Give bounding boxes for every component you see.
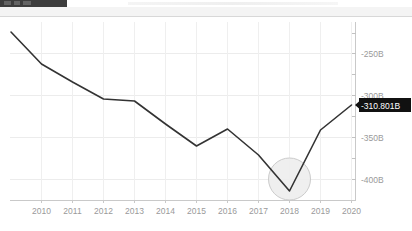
y-tick-label-2: -350B: [361, 133, 384, 143]
screenshot-root: -250B -300B -350B -400B 2010 2011 2012 2…: [0, 0, 412, 231]
browser-tab[interactable]: [0, 0, 67, 7]
x-tick-label-5: 2015: [187, 206, 206, 216]
highlight-circle-2018[interactable]: [269, 158, 311, 200]
x-tick-label-10: 2020: [342, 206, 361, 216]
y-tick-label-3: -400B: [361, 175, 384, 185]
y-tick-label-0: -250B: [361, 49, 384, 59]
line-chart[interactable]: -250B -300B -350B -400B 2010 2011 2012 2…: [0, 17, 412, 231]
chrome-faint-toolbar-hint: [128, 2, 338, 5]
x-tick-label-7: 2017: [249, 206, 268, 216]
x-tick-label-2: 2012: [94, 206, 113, 216]
x-tick-label-4: 2014: [156, 206, 175, 216]
x-tick-label-6: 2016: [218, 206, 237, 216]
x-tick-label-9: 2019: [311, 206, 330, 216]
x-tick-label-3: 2013: [125, 206, 144, 216]
x-tick-label-0: 2010: [32, 206, 51, 216]
chart-panel: -250B -300B -350B -400B 2010 2011 2012 2…: [0, 17, 412, 231]
x-tick-label-1: 2011: [63, 206, 82, 216]
tooltip-value-label: -310.801B: [361, 101, 401, 111]
x-axis-tick-labels: 2010 2011 2012 2013 2014 2015 2016 2017 …: [32, 206, 361, 216]
browser-chrome-strip: [0, 0, 412, 17]
browser-tab-title-glyphs: [4, 1, 44, 5]
x-tick-label-8: 2018: [280, 206, 299, 216]
y-axis-tick-labels: -250B -300B -350B -400B: [361, 49, 384, 185]
current-value-tooltip[interactable]: -310.801B: [355, 98, 411, 112]
